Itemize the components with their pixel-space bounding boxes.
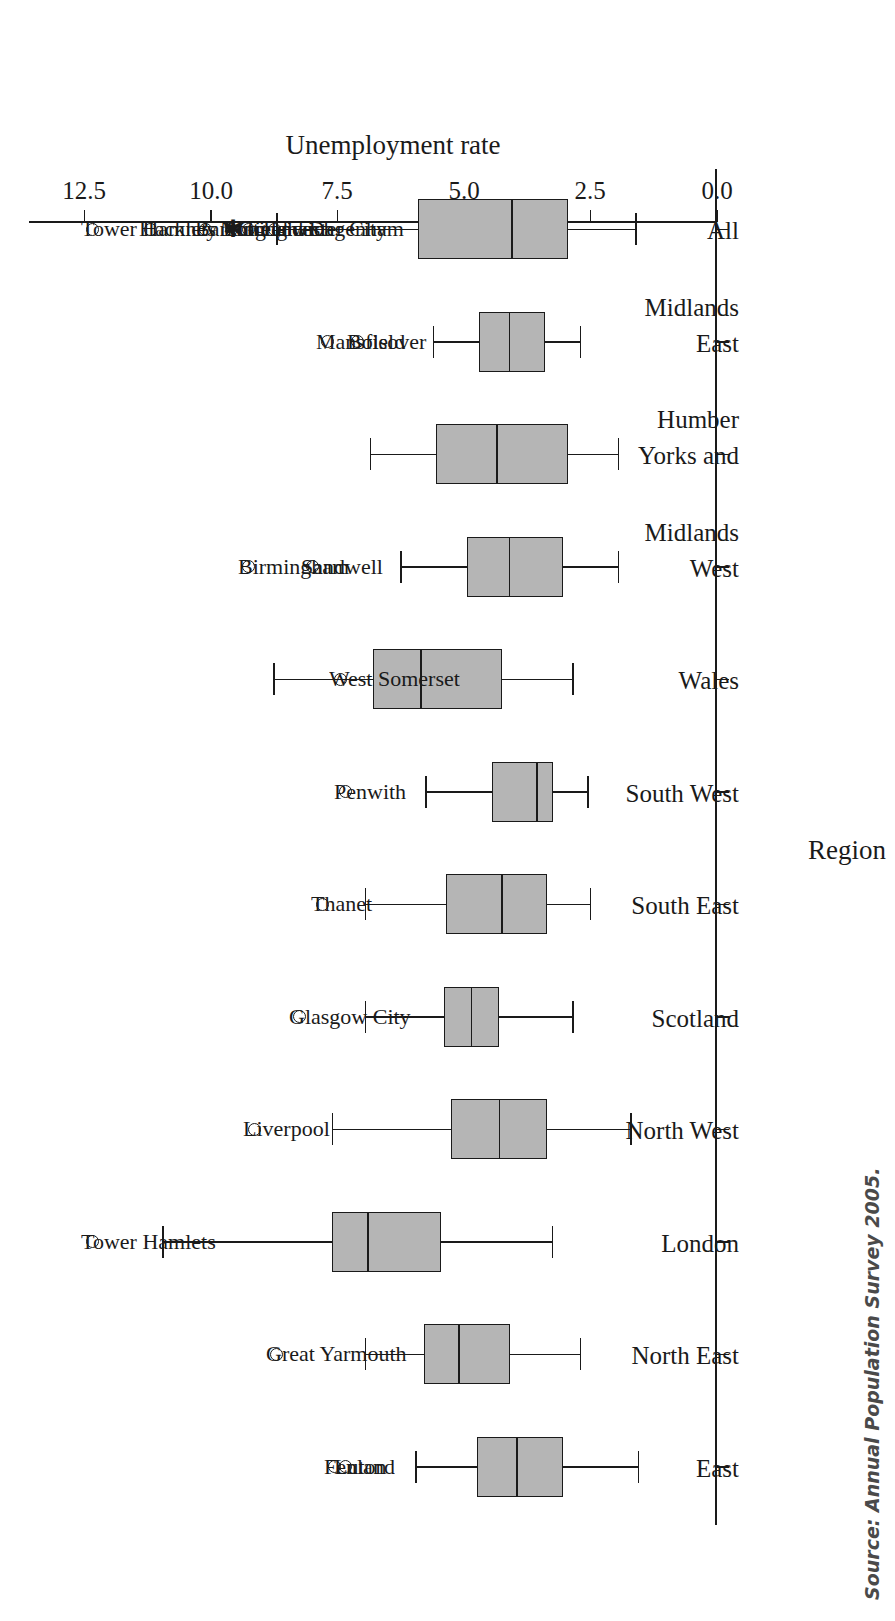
source-note: Source: Annual Population Survey 2005.: [861, 1168, 883, 1600]
outlier-label: Penwith: [334, 779, 406, 805]
boxplot-box: [467, 537, 563, 597]
boxplot-median-line: [471, 987, 473, 1047]
boxplot-box: [477, 1437, 563, 1497]
category-label: London: [661, 1230, 739, 1258]
category-label-secondary: Midlands: [645, 519, 739, 547]
boxplot-whisker-cap-low: [638, 1451, 640, 1483]
value-axis-tick-label: 12.5: [45, 177, 125, 205]
boxplot-median-line: [516, 1437, 518, 1497]
boxplot-median-line: [509, 312, 511, 372]
boxplot-whisker-cap-low: [572, 664, 574, 696]
category-label: Scotland: [652, 1005, 740, 1033]
boxplot-box: [446, 875, 547, 935]
outlier-label: Birmingham: [238, 554, 349, 580]
boxplot-whisker-cap-low: [630, 1114, 632, 1146]
boxplot-whisker-cap-high: [433, 326, 435, 358]
boxplot-figure: 0.02.55.07.510.012.5Unemployment rateEas…: [0, 0, 895, 1621]
value-axis-tick-label: 7.5: [298, 177, 378, 205]
outlier-label: Fenland: [324, 1454, 395, 1480]
outlier-label: Mansfield: [316, 329, 405, 355]
boxplot-whisker-cap-high: [415, 1451, 417, 1483]
plot-canvas: 0.02.55.07.510.012.5Unemployment rateEas…: [0, 0, 895, 1621]
boxplot-whisker-cap-high: [273, 664, 275, 696]
boxplot-whisker-cap-high: [425, 776, 427, 808]
boxplot-box: [436, 425, 568, 485]
boxplot-box: [424, 1325, 510, 1385]
category-label: North West: [626, 1118, 740, 1146]
category-label: South East: [631, 893, 739, 921]
category-label: North East: [631, 1343, 739, 1371]
boxplot-whisker-cap-low: [580, 326, 582, 358]
boxplot-whisker-cap-low: [618, 439, 620, 471]
category-axis-line: [715, 170, 717, 1526]
category-label-secondary: Humber: [657, 407, 739, 435]
outlier-label: Thanet: [311, 892, 372, 918]
boxplot-whisker-cap-low: [552, 1226, 554, 1258]
source-note-text: Source: Annual Population Survey 2005.: [861, 1168, 883, 1600]
category-label: East: [696, 1455, 739, 1483]
boxplot-median-line: [509, 537, 511, 597]
boxplot-box: [479, 312, 545, 372]
boxplot-median-line: [496, 425, 498, 485]
outlier-label: Tower Hamlets: [81, 1229, 216, 1255]
value-axis-tick-label: 10.0: [171, 177, 251, 205]
outlier-label: Great Yarmouth: [266, 1342, 407, 1368]
boxplot-box: [492, 762, 553, 822]
outlier-label: Liverpool: [243, 1117, 330, 1143]
category-label: East: [696, 330, 739, 358]
outlier-label: Tower Hamlets: [81, 217, 216, 243]
boxplot-median-line: [501, 875, 503, 935]
boxplot-median-line: [499, 1100, 501, 1160]
boxplot-whisker-cap-high: [332, 1114, 334, 1146]
boxplot-whisker-cap-low: [580, 1339, 582, 1371]
value-axis-tick-label: 0.0: [677, 177, 757, 205]
outlier-label: Glasgow City: [289, 1004, 411, 1030]
category-label: South West: [625, 780, 739, 808]
category-label: Yorks and: [638, 443, 739, 471]
boxplot-whisker-cap-low: [587, 776, 589, 808]
boxplot-median-line: [367, 1212, 369, 1272]
category-label: West: [690, 555, 739, 583]
boxplot-median-line: [536, 762, 538, 822]
value-axis-tick: [590, 210, 592, 222]
boxplot-whisker-cap-high: [400, 551, 402, 583]
category-label-secondary: Midlands: [645, 294, 739, 322]
boxplot-whisker-cap-low: [572, 1001, 574, 1033]
boxplot-whisker-cap-high: [370, 439, 372, 471]
outlier-label: West Somerset: [329, 667, 460, 693]
boxplot-median-line: [458, 1325, 460, 1385]
boxplot-whisker-cap-low: [618, 551, 620, 583]
boxplot-box: [332, 1212, 441, 1272]
boxplot-whisker-cap-low: [590, 889, 592, 921]
category-label: All: [707, 218, 739, 246]
outlier-label: Barking and Dagenham: [195, 217, 404, 243]
value-axis-title: Unemployment rate: [286, 130, 501, 161]
boxplot-whisker-cap-low: [635, 214, 637, 246]
category-label: Wales: [679, 668, 739, 696]
boxplot-box: [418, 200, 567, 260]
boxplot-median-line: [511, 200, 513, 260]
category-axis-title: Region: [808, 835, 886, 866]
